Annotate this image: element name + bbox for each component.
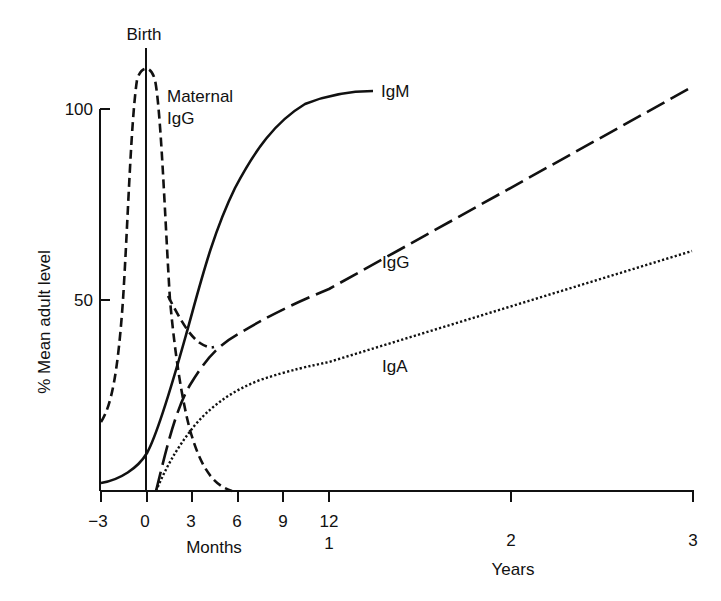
series-labels: Maternal IgG IgM IgG IgA (167, 82, 409, 376)
x-axis: −3 0 3 6 9 12 Months 1 2 3 Years (88, 491, 697, 579)
series-maternal-igg-line (101, 69, 232, 491)
x-tick-label-3: 3 (186, 512, 195, 531)
maternal-igg-label-line1: Maternal (167, 87, 233, 106)
x-tick-label-3y: 3 (688, 531, 697, 550)
x-tick-label--3: −3 (88, 512, 107, 531)
igm-label: IgM (381, 82, 409, 101)
x-tick-label-6: 6 (232, 512, 241, 531)
x-tick-label-2y: 2 (506, 531, 515, 550)
x-tick-label-9: 9 (278, 512, 287, 531)
x-tick-label-1y: 1 (324, 534, 333, 553)
igg-label: IgG (382, 253, 409, 272)
birth-label: Birth (127, 25, 162, 44)
x-axis-label-months: Months (186, 538, 242, 557)
maternal-igg-label-line2: IgG (167, 109, 194, 128)
series (101, 69, 692, 491)
x-tick-label-12: 12 (320, 512, 339, 531)
series-igg-line (156, 87, 692, 491)
y-axis: 100 50 % Mean adult level (35, 100, 110, 491)
birth-marker: Birth (127, 25, 162, 491)
iga-label: IgA (382, 357, 408, 376)
y-tick-label-100: 100 (65, 100, 93, 119)
x-axis-label-years: Years (492, 560, 535, 579)
immunoglobulin-chart: 100 50 % Mean adult level −3 0 3 6 9 12 … (0, 0, 721, 601)
y-axis-label: % Mean adult level (35, 250, 54, 394)
x-tick-label-0: 0 (140, 512, 149, 531)
series-iga-line (156, 251, 692, 491)
y-tick-label-50: 50 (74, 291, 93, 310)
